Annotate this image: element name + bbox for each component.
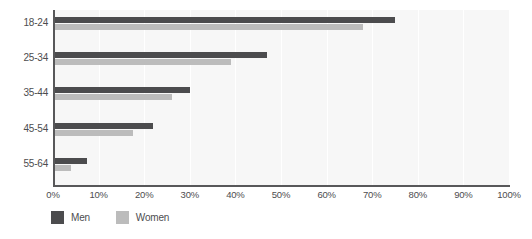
legend-label-men: Men — [71, 212, 90, 223]
gridline — [327, 10, 328, 186]
gridline — [509, 10, 510, 186]
legend-item-men: Men — [51, 211, 90, 224]
plot-area — [53, 10, 509, 186]
chart-legend: MenWomen — [51, 210, 195, 224]
gridline — [418, 10, 419, 186]
x-tick-100%: 100% — [489, 189, 529, 201]
x-tick-90%: 90% — [443, 189, 483, 201]
x-tick-30%: 30% — [170, 189, 210, 201]
x-tick-10%: 10% — [79, 189, 119, 201]
legend-label-women: Women — [136, 212, 169, 223]
gridline — [281, 10, 282, 186]
x-tick-60%: 60% — [307, 189, 347, 201]
bar-women-45-54 — [53, 130, 133, 136]
y-axis-line — [53, 10, 55, 186]
legend-swatch-men — [51, 211, 64, 224]
x-axis-line — [53, 185, 510, 187]
bar-men-35-44 — [53, 87, 190, 93]
x-axis-tick-labels: 0%10%20%30%40%50%60%70%80%90%100% — [53, 189, 510, 203]
y-axis-label-45-54: 45-54 — [4, 124, 48, 134]
y-axis-label-35-44: 35-44 — [4, 88, 48, 98]
y-axis-label-55-64: 55-64 — [4, 159, 48, 169]
bar-men-45-54 — [53, 123, 153, 129]
bar-women-55-64 — [53, 165, 71, 171]
x-tick-70%: 70% — [352, 189, 392, 201]
legend-swatch-women — [116, 211, 129, 224]
bar-men-55-64 — [53, 158, 87, 164]
y-axis-label-18-24: 18-24 — [4, 18, 48, 28]
legend-item-women: Women — [116, 211, 169, 224]
x-tick-0%: 0% — [33, 189, 73, 201]
x-tick-50%: 50% — [261, 189, 301, 201]
bar-women-25-34 — [53, 59, 231, 65]
gridline — [463, 10, 464, 186]
gridline — [372, 10, 373, 186]
x-tick-40%: 40% — [215, 189, 255, 201]
x-tick-20%: 20% — [124, 189, 164, 201]
bar-men-18-24 — [53, 17, 395, 23]
y-axis-label-25-34: 25-34 — [4, 53, 48, 63]
y-axis-category-labels: 18-2425-3435-4445-5455-64 — [0, 10, 48, 186]
gridline — [190, 10, 191, 186]
gridline — [235, 10, 236, 186]
x-tick-80%: 80% — [398, 189, 438, 201]
bar-women-35-44 — [53, 94, 172, 100]
bar-men-25-34 — [53, 52, 267, 58]
bar-women-18-24 — [53, 24, 363, 30]
chart-screenshot: 18-2425-3435-4445-5455-64 0%10%20%30%40%… — [0, 0, 532, 239]
